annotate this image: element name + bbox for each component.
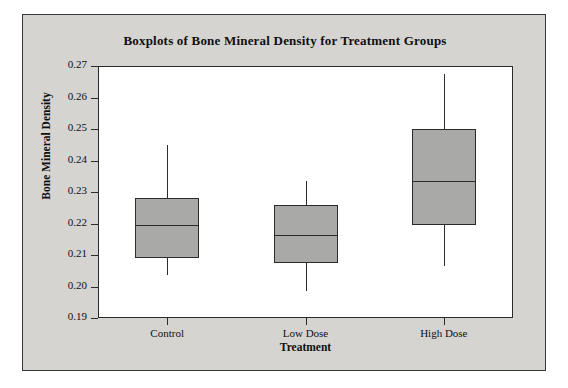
lower-whisker (306, 263, 307, 291)
upper-whisker (306, 181, 307, 205)
y-axis-tick-mark (91, 287, 98, 288)
y-axis-tick-label: 0.20 (68, 279, 87, 291)
y-axis-tick-mark (91, 98, 98, 99)
plot-area (98, 66, 513, 318)
y-axis-tick-label: 0.19 (68, 310, 87, 322)
x-axis-tick-mark (444, 318, 445, 325)
box-iqr (135, 198, 199, 258)
y-axis-tick-mark (91, 224, 98, 225)
y-axis-tick-mark (91, 129, 98, 130)
boxplot-control (135, 67, 199, 317)
y-axis-tick-mark (91, 66, 98, 67)
x-axis-tick-mark (306, 318, 307, 325)
boxplot-low-dose (274, 67, 338, 317)
y-axis-tick-label: 0.24 (68, 153, 87, 165)
upper-whisker (444, 74, 445, 129)
figure-panel: Boxplots of Bone Mineral Density for Tre… (22, 14, 546, 371)
x-axis-title: Treatment (98, 341, 513, 353)
y-axis-tick-label: 0.21 (68, 247, 87, 259)
y-axis-title: Bone Mineral Density (40, 61, 52, 231)
lower-whisker (444, 225, 445, 266)
y-axis-tick-label: 0.22 (68, 216, 87, 228)
y-axis-tick-label: 0.26 (68, 90, 87, 102)
y-axis-tick-label: 0.25 (68, 121, 87, 133)
y-axis-tick-label: 0.27 (68, 58, 87, 70)
lower-whisker (167, 258, 168, 275)
y-axis-tick-label: 0.23 (68, 184, 87, 196)
x-axis-tick-mark (167, 318, 168, 325)
x-axis-tick-label: Control (150, 327, 184, 339)
y-axis-tick-mark (91, 318, 98, 319)
y-axis-tick-mark (91, 161, 98, 162)
chart-title: Boxplots of Bone Mineral Density for Tre… (23, 33, 547, 49)
y-axis-tick-mark (91, 192, 98, 193)
boxplot-high-dose (412, 67, 476, 317)
x-axis-tick-label: High Dose (420, 327, 467, 339)
x-axis-tick-label: Low Dose (283, 327, 329, 339)
y-axis-tick-mark (91, 255, 98, 256)
median-line (135, 225, 199, 226)
median-line (412, 181, 476, 182)
median-line (274, 235, 338, 236)
upper-whisker (167, 145, 168, 199)
box-iqr (412, 129, 476, 225)
